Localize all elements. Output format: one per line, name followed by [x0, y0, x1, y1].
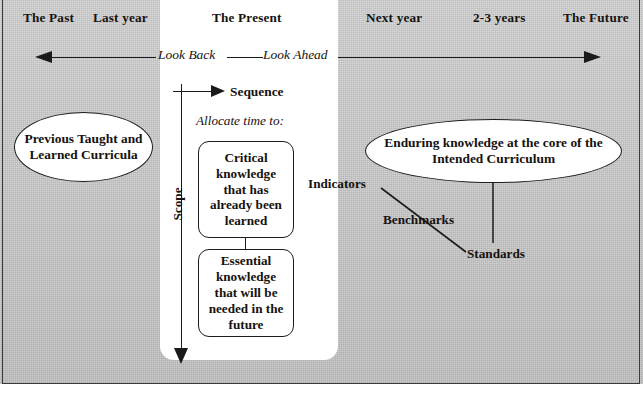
timeline-label-the-past: The Past: [23, 10, 74, 26]
scope-axis-label: Scope: [170, 169, 186, 239]
annotation-standards: Standards: [467, 246, 525, 262]
timeline-label-2-3-years: 2-3 years: [473, 10, 526, 26]
timeline-caption-look-back: Look Back: [158, 47, 215, 63]
oval-previous-curricula: Previous Taught and Learned Curricula: [14, 112, 153, 182]
diagram-canvas: The Past Last year The Present Next year…: [0, 0, 643, 396]
timeline-axis-segment-right: [338, 57, 585, 58]
timeline-axis-segment-left: [51, 57, 156, 58]
timeline-label-the-present: The Present: [212, 10, 282, 26]
box-essential-knowledge: Essential knowledge that will be needed …: [198, 249, 294, 337]
oval-enduring-knowledge: Enduring knowledge at the core of the In…: [365, 119, 622, 183]
sequence-axis-line: [182, 91, 213, 92]
allocate-time-caption: Allocate time to:: [196, 113, 284, 129]
scope-arrowhead-icon: [174, 348, 188, 364]
timeline-axis-segment-middle: [227, 57, 263, 58]
timeline-arrowhead-right: [584, 51, 601, 63]
timeline-label-next-year: Next year: [366, 10, 422, 26]
timeline-caption-look-ahead: Look Ahead: [263, 47, 328, 63]
timeline-label-the-future: The Future: [563, 10, 629, 26]
box-critical-knowledge: Critical knowledge that has already been…: [198, 141, 294, 238]
sequence-arrowhead-icon: [211, 85, 225, 97]
bottom-white-margin: [0, 384, 643, 396]
box-connector-line: [245, 238, 246, 249]
timeline-label-last-year: Last year: [93, 10, 148, 26]
annotation-benchmarks: Benchmarks: [383, 212, 454, 228]
annotation-indicators: Indicators: [308, 176, 366, 192]
sequence-axis-label: Sequence: [230, 84, 284, 100]
timeline-arrowhead-left: [35, 51, 52, 63]
